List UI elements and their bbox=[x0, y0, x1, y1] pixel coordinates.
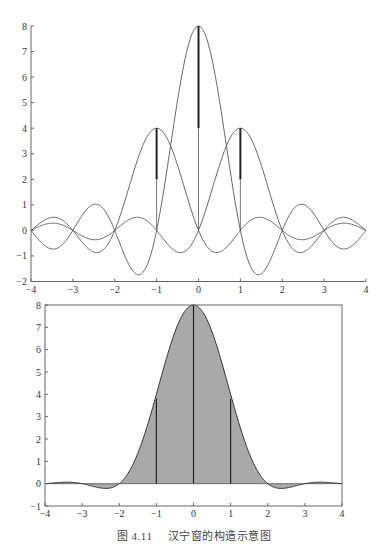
top-chart-kernels: −2−1012345678−4−3−2−101234 bbox=[16, 21, 368, 295]
y-tick-label: 0 bbox=[22, 225, 27, 236]
y-tick-label: 4 bbox=[22, 123, 27, 134]
y-tick-label: 1 bbox=[36, 456, 41, 467]
x-tick-label: −1 bbox=[151, 508, 162, 519]
x-tick-label: 2 bbox=[265, 508, 270, 519]
x-tick-label: 2 bbox=[280, 284, 285, 295]
y-tick-label: 8 bbox=[36, 300, 41, 311]
figure-caption: 图 4.11 汉宁窗的构造示意图 bbox=[0, 527, 388, 543]
x-tick-label: 0 bbox=[196, 284, 201, 295]
y-tick-label: 1 bbox=[22, 199, 27, 210]
x-tick-label: −3 bbox=[77, 508, 88, 519]
x-tick-label: −3 bbox=[68, 284, 79, 295]
x-tick-label: −2 bbox=[114, 508, 125, 519]
x-tick-label: 4 bbox=[364, 284, 369, 295]
x-tick-label: −4 bbox=[40, 508, 51, 519]
y-tick-label: 8 bbox=[22, 21, 27, 32]
y-tick-label: 3 bbox=[36, 411, 41, 422]
y-tick-label: 7 bbox=[22, 46, 27, 57]
y-tick-label: 5 bbox=[22, 97, 27, 108]
x-tick-label: 1 bbox=[238, 284, 243, 295]
x-tick-label: −4 bbox=[26, 284, 37, 295]
y-tick-label: 3 bbox=[22, 148, 27, 159]
x-tick-label: 3 bbox=[322, 284, 327, 295]
x-tick-label: 1 bbox=[228, 508, 233, 519]
y-tick-label: 6 bbox=[36, 344, 41, 355]
y-tick-label: 2 bbox=[36, 434, 41, 445]
y-tick-label: 0 bbox=[36, 478, 41, 489]
y-tick-label: 5 bbox=[36, 367, 41, 378]
y-tick-label: −1 bbox=[16, 250, 27, 261]
x-tick-label: −2 bbox=[109, 284, 120, 295]
y-tick-label: 4 bbox=[36, 389, 41, 400]
x-tick-label: 3 bbox=[302, 508, 307, 519]
x-tick-label: 4 bbox=[340, 508, 345, 519]
top-chart-axes: −2−1012345678−4−3−2−101234 bbox=[16, 21, 368, 295]
figure-title: 汉宁窗的构造示意图 bbox=[168, 530, 272, 542]
figure-number: 图 4.11 bbox=[117, 530, 153, 542]
top-chart-stems bbox=[157, 26, 241, 230]
bottom-chart-hanning-window: −1012345678−4−3−2−101234 bbox=[30, 300, 344, 520]
y-tick-label: 2 bbox=[22, 174, 27, 185]
figure: −2−1012345678−4−3−2−101234 −1012345678−4… bbox=[0, 0, 388, 557]
x-tick-label: 0 bbox=[191, 508, 196, 519]
y-tick-label: 6 bbox=[22, 72, 27, 83]
y-tick-label: 7 bbox=[36, 322, 41, 333]
x-tick-label: −1 bbox=[151, 284, 162, 295]
